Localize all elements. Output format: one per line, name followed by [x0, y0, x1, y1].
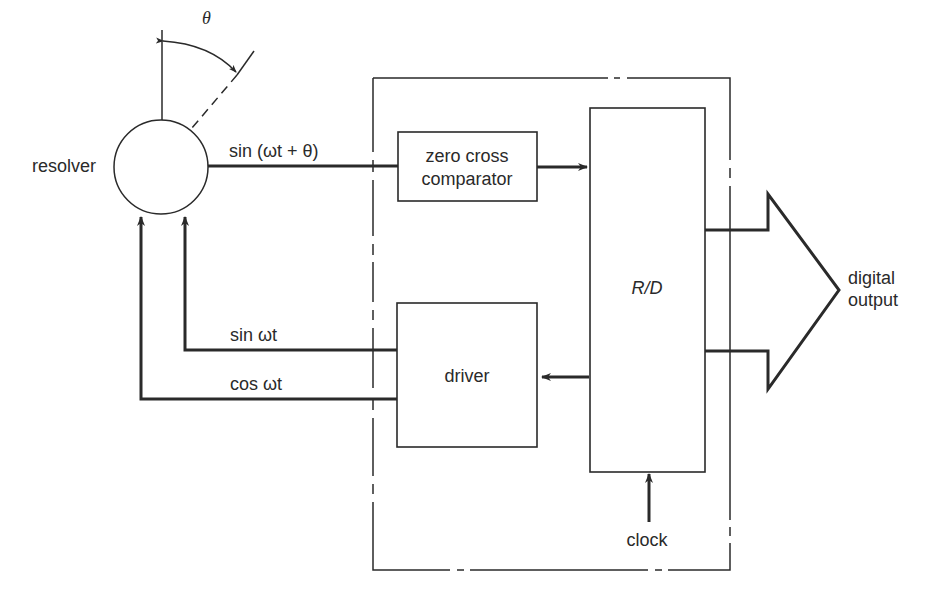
rotor-axis-dashed: [192, 75, 237, 128]
feedback-signal-label: sin (ωt + θ): [229, 141, 319, 161]
cos-excitation-path: cos ωt: [141, 217, 397, 399]
comparator-label-line2: comparator: [421, 169, 512, 189]
comparator-label-line1: zero cross: [425, 146, 508, 166]
resolver-label: resolver: [32, 156, 96, 176]
comparator-block: zero cross comparator: [398, 132, 537, 201]
rd-converter-block: R/D: [590, 108, 705, 472]
rd-label: R/D: [632, 278, 663, 298]
sin-excitation-path: sin ωt: [185, 217, 397, 350]
cos-excitation-label: cos ωt: [230, 374, 282, 394]
resolver-circle: [114, 120, 208, 214]
clock-input: clock: [626, 474, 668, 550]
driver-block: driver: [397, 303, 537, 447]
digital-output-label-line2: output: [848, 290, 898, 310]
rotor-axis-solid: [237, 51, 254, 75]
resolver-to-digital-diagram: θ resolver sin (ωt + θ) zero cross compa…: [0, 0, 943, 600]
clock-label: clock: [626, 530, 668, 550]
feedback-signal-path: sin (ωt + θ): [208, 141, 398, 166]
theta-label: θ: [202, 8, 211, 28]
angle-arc: [163, 41, 236, 72]
sin-excitation-label: sin ωt: [230, 325, 277, 345]
digital-output-arrow: digital output: [705, 194, 898, 389]
driver-label: driver: [444, 366, 489, 386]
digital-output-label-line1: digital: [848, 268, 895, 288]
resolver: θ resolver: [32, 8, 254, 214]
